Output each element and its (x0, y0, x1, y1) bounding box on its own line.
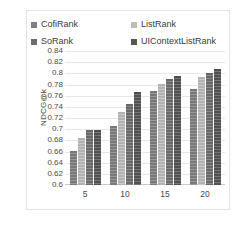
x-tick-label: 15 (149, 187, 182, 203)
y-tick-label: 0.6 (52, 181, 63, 189)
y-tick-label: 0.7 (52, 125, 63, 133)
legend-label-sorank: SoRank (41, 37, 73, 46)
legend-item-cofirank: CofiRank (31, 16, 131, 33)
legend-swatch-sorank (31, 39, 37, 45)
bar-group-15 (150, 51, 181, 185)
y-axis-ticks: 0.840.820.80.780.760.740.720.70.680.660.… (37, 51, 63, 185)
y-tick-label: 0.84 (47, 47, 63, 55)
bar-listrank-15 (158, 84, 165, 185)
bar-uicontextlistrank-5 (94, 130, 101, 185)
bar-groups (65, 51, 225, 185)
bar-group-5 (70, 51, 101, 185)
chart-container: CofiRank ListRank SoRank UIContextListRa… (26, 10, 230, 210)
bar-sorank-5 (86, 130, 93, 185)
plot-area: NDCG@k 0.840.820.80.780.760.740.720.70.6… (27, 51, 231, 209)
y-tick-label: 0.66 (47, 148, 63, 156)
bar-uicontextlistrank-20 (214, 69, 221, 185)
bar-cofirank-15 (150, 91, 157, 185)
legend-swatch-listrank (131, 22, 137, 28)
x-axis-ticks: 5101520 (65, 187, 225, 203)
legend-swatch-cofirank (31, 22, 37, 28)
bar-sorank-10 (126, 104, 133, 185)
bar-listrank-10 (118, 112, 125, 185)
bar-sorank-15 (166, 79, 173, 185)
y-tick-label: 0.8 (52, 69, 63, 77)
bar-uicontextlistrank-15 (174, 76, 181, 185)
y-tick-label: 0.72 (47, 114, 63, 122)
legend-label-uicontextlistrank: UIContextListRank (141, 37, 216, 46)
bar-sorank-20 (206, 73, 213, 185)
bar-group-10 (110, 51, 141, 185)
x-tick-label: 20 (189, 187, 222, 203)
bar-cofirank-20 (190, 89, 197, 185)
y-tick-label: 0.62 (47, 170, 63, 178)
chart-legend: CofiRank ListRank SoRank UIContextListRa… (31, 16, 227, 50)
legend-item-uicontextlistrank: UIContextListRank (131, 33, 227, 50)
x-tick-label: 5 (69, 187, 102, 203)
legend-label-cofirank: CofiRank (41, 20, 78, 29)
bar-group-20 (190, 51, 221, 185)
y-tick-label: 0.78 (47, 81, 63, 89)
bar-listrank-20 (198, 77, 205, 185)
legend-item-listrank: ListRank (131, 16, 227, 33)
legend-item-sorank: SoRank (31, 33, 131, 50)
bar-cofirank-10 (110, 126, 117, 185)
bar-listrank-5 (78, 138, 85, 185)
y-tick-label: 0.74 (47, 103, 63, 111)
legend-swatch-uicontextlistrank (131, 39, 137, 45)
y-tick-label: 0.76 (47, 92, 63, 100)
y-tick-label: 0.64 (47, 159, 63, 167)
y-tick-label: 0.82 (47, 58, 63, 66)
bar-cofirank-5 (70, 151, 77, 185)
bar-uicontextlistrank-10 (134, 92, 141, 185)
x-tick-label: 10 (109, 187, 142, 203)
legend-label-listrank: ListRank (141, 20, 176, 29)
y-tick-label: 0.68 (47, 136, 63, 144)
